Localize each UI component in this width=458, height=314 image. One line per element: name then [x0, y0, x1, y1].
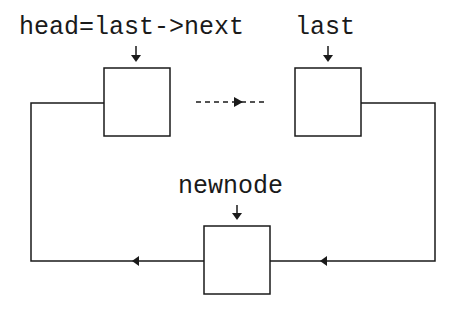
new-node-box	[204, 226, 270, 294]
dashed-edge-head-to-last	[196, 97, 265, 107]
linked-list-diagram: head=last->next last newnode	[0, 0, 458, 314]
last-pointer-arrow-icon	[323, 46, 333, 62]
head-node-box	[104, 68, 170, 136]
last-node-box	[295, 68, 361, 136]
head-pointer-label: head=last->next	[19, 13, 244, 42]
newnode-pointer-label: newnode	[178, 172, 283, 201]
newnode-pointer-arrow-icon	[232, 205, 242, 220]
head-pointer-arrow-icon	[131, 46, 141, 62]
last-pointer-label: last	[295, 13, 355, 42]
